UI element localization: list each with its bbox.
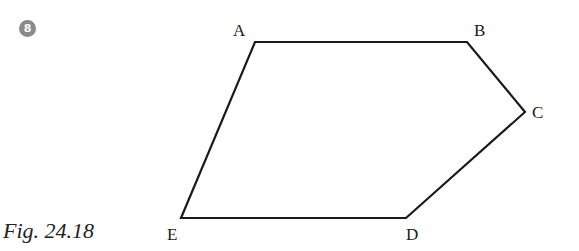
pentagon-figure: A B C D E bbox=[0, 0, 579, 251]
figure-caption: Fig. 24.18 bbox=[3, 218, 94, 244]
vertex-label-b: B bbox=[474, 21, 485, 40]
vertex-label-a: A bbox=[233, 21, 246, 40]
vertex-label-d: D bbox=[406, 225, 418, 244]
vertex-label-c: C bbox=[532, 103, 543, 122]
pentagon-outline bbox=[181, 42, 525, 218]
vertex-label-e: E bbox=[167, 225, 177, 244]
